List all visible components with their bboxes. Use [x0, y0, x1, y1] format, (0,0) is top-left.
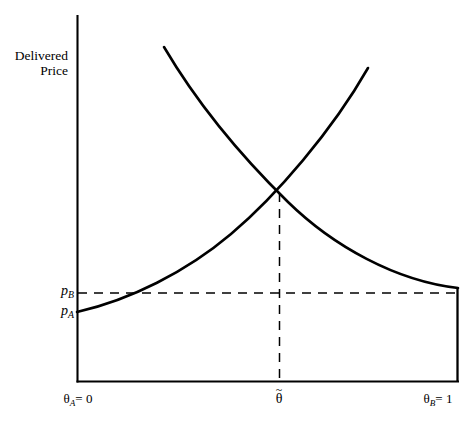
- theta-tilde-group: ~θ: [276, 391, 283, 407]
- y-axis-title-line2: Price: [0, 63, 68, 78]
- theta-a-value: = 0: [75, 391, 92, 406]
- y-axis-title: Delivered Price: [0, 48, 68, 78]
- y-axis-title-line1: Delivered: [0, 48, 68, 63]
- y-tick-label-price-b: pB: [46, 283, 74, 301]
- theta-tilde-accent: ~: [276, 385, 282, 397]
- y-tick-label-price-a: pA: [46, 303, 74, 321]
- price-a-symbol: p: [61, 303, 68, 318]
- x-tick-label-theta-tilde: ~θ: [249, 391, 309, 407]
- x-tick-label-theta-a: θA= 0: [38, 392, 118, 408]
- price-b-subscript: B: [68, 289, 74, 300]
- curve-firm-a-delivered-price: [77, 68, 368, 312]
- x-tick-label-theta-b: θB= 1: [398, 392, 471, 408]
- price-a-subscript: A: [68, 309, 74, 320]
- chart-canvas: [0, 0, 471, 425]
- price-b-symbol: p: [61, 283, 68, 298]
- theta-b-value: = 1: [435, 391, 452, 406]
- delivered-price-chart: Delivered Price pB pA θA= 0 ~θ θB= 1: [0, 0, 471, 425]
